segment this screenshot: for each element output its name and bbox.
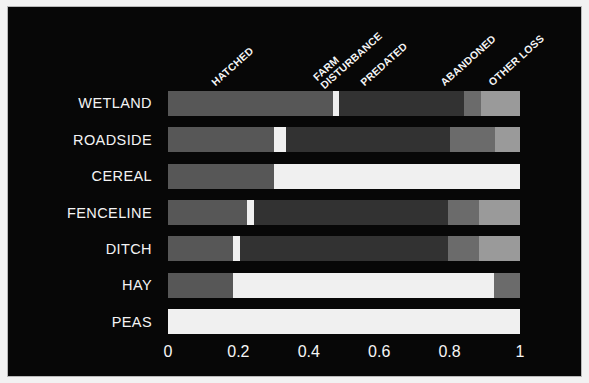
bar-row-fenceline[interactable]: [168, 200, 520, 225]
category-label-hay: HAY: [122, 277, 152, 293]
series-label-hatched: HATCHED: [210, 45, 256, 88]
plot-frame: HATCHEDFARMDISTURBANCEPREDATEDABANDONEDO…: [7, 6, 582, 377]
bar-row-ditch[interactable]: [168, 236, 520, 261]
bar-segment-farm-disturbance[interactable]: [274, 164, 520, 189]
bar-segment-hatched[interactable]: [168, 91, 333, 116]
bar-segment-hatched[interactable]: [168, 236, 233, 261]
bar-row-cereal[interactable]: [168, 164, 520, 189]
category-label-wetland: WETLAND: [78, 95, 152, 111]
bar-segment-abandoned[interactable]: [448, 200, 480, 225]
category-label-cereal: CEREAL: [92, 168, 152, 184]
bar-segment-predated[interactable]: [339, 91, 464, 116]
bar-row-wetland[interactable]: [168, 91, 520, 116]
x-tick-label: 0.6: [368, 343, 390, 361]
category-label-ditch: DITCH: [106, 241, 152, 257]
bar-segment-abandoned[interactable]: [464, 91, 482, 116]
bar-segment-other-loss[interactable]: [479, 236, 519, 261]
bar-segment-farm-disturbance[interactable]: [168, 309, 520, 334]
x-tick-label: 0: [164, 343, 173, 361]
bar-segment-hatched[interactable]: [168, 127, 274, 152]
bar-segment-abandoned[interactable]: [448, 236, 480, 261]
category-axis-labels: WETLANDROADSIDECEREALFENCELINEDITCHHAYPE…: [8, 85, 160, 340]
bar-segment-other-loss[interactable]: [481, 91, 520, 116]
category-label-roadside: ROADSIDE: [73, 132, 152, 148]
bar-segment-farm-disturbance[interactable]: [247, 200, 254, 225]
bar-segment-abandoned[interactable]: [494, 273, 520, 298]
x-tick-label: 1: [516, 343, 525, 361]
bar-segment-farm-disturbance[interactable]: [233, 236, 240, 261]
bar-segment-predated[interactable]: [286, 127, 450, 152]
series-legend-labels: HATCHEDFARMDISTURBANCEPREDATEDABANDONEDO…: [8, 7, 581, 85]
x-axis-tick-labels: 00.20.40.60.81: [168, 340, 520, 370]
bar-row-hay[interactable]: [168, 273, 520, 298]
bar-segment-other-loss[interactable]: [495, 127, 520, 152]
series-label-line: HATCHED: [210, 45, 256, 88]
stacked-bars-area: [168, 85, 520, 340]
category-label-fenceline: FENCELINE: [67, 205, 152, 221]
x-tick-label: 0.2: [227, 343, 249, 361]
bar-segment-hatched[interactable]: [168, 200, 247, 225]
bar-segment-predated[interactable]: [254, 200, 448, 225]
bar-segment-other-loss[interactable]: [479, 200, 519, 225]
bar-segment-hatched[interactable]: [168, 273, 233, 298]
bar-row-roadside[interactable]: [168, 127, 520, 152]
bar-segment-farm-disturbance[interactable]: [233, 273, 493, 298]
x-tick-label: 0.8: [438, 343, 460, 361]
category-label-peas: PEAS: [112, 314, 152, 330]
bar-segment-abandoned[interactable]: [450, 127, 496, 152]
bar-segment-farm-disturbance[interactable]: [274, 127, 286, 152]
bar-segment-predated[interactable]: [240, 236, 448, 261]
x-tick-label: 0.4: [298, 343, 320, 361]
bar-row-peas[interactable]: [168, 309, 520, 334]
bar-segment-hatched[interactable]: [168, 164, 274, 189]
chart-figure: HATCHEDFARMDISTURBANCEPREDATEDABANDONEDO…: [0, 0, 589, 383]
